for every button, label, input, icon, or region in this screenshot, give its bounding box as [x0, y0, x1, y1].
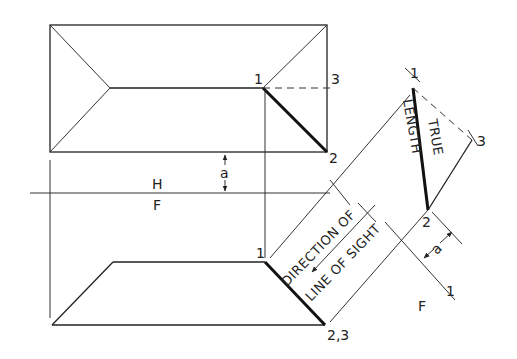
true-length-diagram: 1 3 2 H F a 1 2,3 F 1 a — [0, 0, 517, 359]
point-2-top-label: 2 — [329, 150, 338, 166]
true-length-label-2: LENGTH — [400, 98, 424, 155]
point-2-aux-label: 2 — [422, 214, 431, 230]
point-1-aux-label: 1 — [410, 65, 419, 81]
dimension-a-top: a — [220, 155, 229, 191]
point-1-front-label: 1 — [256, 245, 265, 261]
dimension-a-label: a — [220, 165, 229, 181]
f1-line — [385, 222, 455, 300]
point-1-top-label: 1 — [254, 71, 263, 87]
point-23-front-label: 2,3 — [327, 327, 349, 343]
top-view: 1 3 2 — [50, 25, 340, 166]
hip-line-1-2-top — [263, 88, 327, 152]
hip-line-bottom-left — [50, 88, 110, 152]
point-3-aux-label: 3 — [477, 133, 486, 149]
true-length-label-1: TRUE — [425, 117, 446, 157]
fold-line-f1: F 1 — [385, 222, 455, 314]
point-3-top-label: 3 — [331, 71, 340, 87]
fold-label-f-aux: F — [418, 298, 426, 314]
fold-label-1-aux: 1 — [446, 283, 455, 299]
hip-line-top-right — [263, 25, 327, 88]
fold-label-f: F — [153, 197, 161, 213]
hip-line-top-left — [50, 25, 110, 88]
fold-line-hf: H F — [30, 176, 330, 213]
fold-label-h: H — [152, 176, 163, 192]
dimension-a-aux-label: a — [428, 240, 445, 257]
